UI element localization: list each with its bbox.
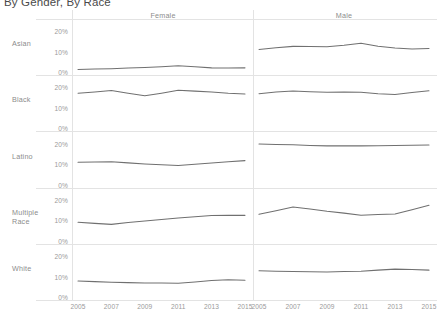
line-series: [78, 66, 245, 70]
y-tick-label: 10%: [42, 217, 68, 224]
row-label-latino: Latino: [12, 152, 58, 161]
panel-black-male: [254, 76, 437, 131]
y-tick-label: 10%: [42, 49, 68, 56]
x-tick-label: 2011: [165, 303, 191, 310]
line-series: [259, 269, 429, 272]
line-series: [78, 90, 245, 96]
grid-hline: [36, 300, 437, 301]
x-tick-label: 2013: [382, 303, 408, 310]
y-tick-label: 0%: [42, 125, 68, 132]
x-tick-label: 2005: [65, 303, 91, 310]
chart-root: By Gender, By Race Female Male AsianBlac…: [0, 0, 440, 324]
y-tick-label: 0%: [42, 69, 68, 76]
x-tick-label: 2015: [416, 303, 440, 310]
page-title: By Gender, By Race: [4, 0, 111, 8]
line-series: [259, 91, 429, 95]
line-series: [78, 215, 245, 224]
panel-latino-male: [254, 132, 437, 187]
panel-multiple-race-male: [254, 189, 437, 244]
y-tick-label: 10%: [42, 161, 68, 168]
x-tick-label: 2011: [348, 303, 374, 310]
panel-white-male: [254, 245, 437, 300]
x-tick-label: 2007: [98, 303, 124, 310]
line-series: [259, 205, 429, 215]
y-tick-label: 20%: [42, 197, 68, 204]
row-label-black: Black: [12, 95, 58, 104]
y-tick-label: 10%: [42, 105, 68, 112]
x-tick-label: 2009: [132, 303, 158, 310]
y-tick-label: 20%: [42, 28, 68, 35]
panel-asian-male: [254, 20, 437, 75]
panel-latino-female: [73, 132, 253, 187]
panel-white-female: [73, 245, 253, 300]
line-series: [259, 43, 429, 49]
panel-multiple-race-female: [73, 189, 253, 244]
panel-asian-female: [73, 20, 253, 75]
row-label-asian: Asian: [12, 39, 58, 48]
x-tick-label: 2007: [280, 303, 306, 310]
line-series: [78, 280, 245, 283]
y-tick-label: 10%: [42, 274, 68, 281]
y-tick-label: 20%: [42, 84, 68, 91]
y-tick-label: 20%: [42, 253, 68, 260]
x-tick-label: 2009: [314, 303, 340, 310]
panel-black-female: [73, 76, 253, 131]
line-series: [259, 144, 429, 146]
x-tick-label: 2005: [246, 303, 272, 310]
line-series: [78, 161, 245, 166]
y-tick-label: 20%: [42, 141, 68, 148]
row-label-white: White: [12, 264, 58, 273]
x-tick-label: 2013: [199, 303, 225, 310]
y-tick-label: 0%: [42, 294, 68, 301]
y-tick-label: 0%: [42, 182, 68, 189]
y-tick-label: 0%: [42, 238, 68, 245]
